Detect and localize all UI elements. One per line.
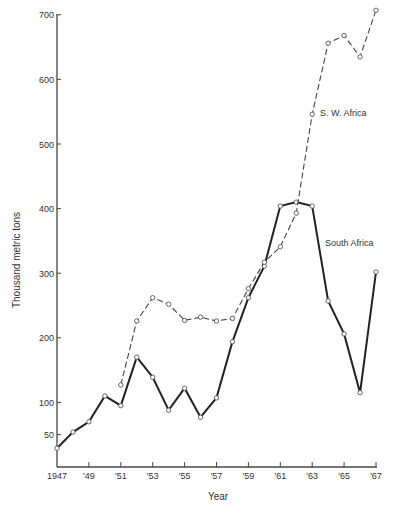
data-point-marker xyxy=(103,394,107,398)
x-tick-label: '51 xyxy=(115,471,127,481)
x-tick-label: '59 xyxy=(243,471,255,481)
data-point-marker xyxy=(294,211,298,215)
data-point-marker xyxy=(214,396,218,400)
x-tick-label: '61 xyxy=(274,471,286,481)
line-chart: 501002003004005006007001947'49'51'53'55'… xyxy=(0,0,397,512)
sw-africa-label: S. W. Africa xyxy=(320,108,367,118)
data-point-marker xyxy=(358,391,362,395)
data-point-marker xyxy=(151,375,155,379)
data-point-marker xyxy=(246,296,250,300)
data-point-marker xyxy=(214,319,218,323)
x-tick-label: '67 xyxy=(370,471,382,481)
x-axis-title: Year xyxy=(208,491,229,502)
data-point-marker xyxy=(198,315,202,319)
y-tick-label: 500 xyxy=(39,140,54,150)
data-point-marker xyxy=(278,245,282,249)
y-tick-label: 50 xyxy=(44,430,54,440)
data-point-marker xyxy=(246,287,250,291)
data-point-marker xyxy=(326,41,330,45)
y-tick-label: 400 xyxy=(39,204,54,214)
data-point-marker xyxy=(182,318,186,322)
data-point-marker xyxy=(230,316,234,320)
data-point-marker xyxy=(310,204,314,208)
y-tick-label: 200 xyxy=(39,333,54,343)
data-point-marker xyxy=(310,112,314,116)
data-point-marker xyxy=(230,339,234,343)
data-point-marker xyxy=(342,33,346,37)
data-point-marker xyxy=(374,8,378,12)
data-point-marker xyxy=(166,302,170,306)
data-point-marker xyxy=(358,55,362,59)
south-africa-label: South Africa xyxy=(325,238,374,248)
y-axis-title: Thousand metric tons xyxy=(11,212,22,308)
data-point-marker xyxy=(374,270,378,274)
series-labels: South AfricaS. W. Africa xyxy=(320,108,374,248)
data-point-marker xyxy=(182,386,186,390)
y-tick-label: 600 xyxy=(39,75,54,85)
y-tick-label: 100 xyxy=(39,398,54,408)
data-point-marker xyxy=(55,446,59,450)
data-point-marker xyxy=(135,319,139,323)
x-tick-label: 1947 xyxy=(47,471,67,481)
data-point-marker xyxy=(342,332,346,336)
sw-africa-line xyxy=(121,10,376,385)
y-tick-label: 700 xyxy=(39,10,54,20)
x-tick-label: '55 xyxy=(179,471,191,481)
x-tick-label: '49 xyxy=(83,471,95,481)
data-point-marker xyxy=(262,260,266,264)
data-point-marker xyxy=(278,204,282,208)
x-tick-label: '57 xyxy=(211,471,223,481)
data-point-marker xyxy=(135,355,139,359)
series-lines xyxy=(55,8,378,450)
data-point-marker xyxy=(326,299,330,303)
x-tick-label: '63 xyxy=(306,471,318,481)
data-point-marker xyxy=(151,296,155,300)
data-point-marker xyxy=(119,383,123,387)
x-tick-label: '65 xyxy=(338,471,350,481)
x-tick-label: '53 xyxy=(147,471,159,481)
data-point-marker xyxy=(71,430,75,434)
data-point-marker xyxy=(119,403,123,407)
data-point-marker xyxy=(166,408,170,412)
data-point-marker xyxy=(87,420,91,424)
y-tick-label: 300 xyxy=(39,269,54,279)
data-point-marker xyxy=(198,415,202,419)
